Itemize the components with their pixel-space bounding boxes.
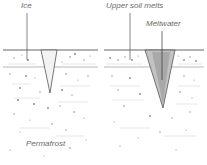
ice-wedge-left	[41, 50, 57, 93]
label-ice: Ice	[21, 2, 32, 10]
right-panel	[104, 13, 204, 151]
label-upper-soil-melts: Upper soil melts	[106, 2, 163, 10]
left-panel	[3, 13, 98, 157]
label-permafrost: Permafrost	[26, 140, 65, 148]
label-meltwater: Meltwater	[146, 20, 181, 28]
